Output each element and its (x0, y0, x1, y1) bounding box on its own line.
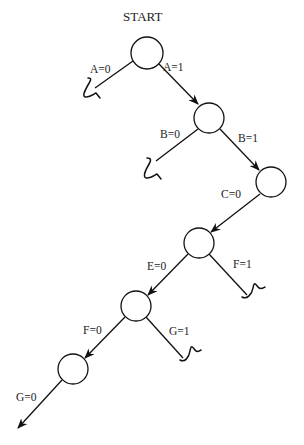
edge-g1 (146, 317, 183, 358)
label-b1: B=1 (238, 132, 258, 144)
decision-tree-diagram: START A=0 A=1 B=0 B=1 C=0 E=0 F=1 F=0 G=… (0, 0, 304, 445)
label-f1: F=1 (233, 258, 252, 270)
label-e0: E=0 (147, 260, 167, 272)
dead-end-squiggle-icon (242, 284, 265, 298)
label-b0: B=0 (160, 128, 180, 140)
label-g0: G=0 (16, 391, 37, 403)
node-6 (58, 354, 88, 384)
label-g1: G=1 (169, 325, 190, 337)
node-1 (131, 37, 163, 69)
node-5 (121, 291, 151, 321)
node-2 (194, 103, 224, 133)
label-f0: F=0 (83, 324, 102, 336)
label-c0: C=0 (221, 188, 241, 200)
dead-end-squiggle-icon (180, 347, 201, 361)
start-label: START (123, 9, 162, 24)
edge-g0 (18, 380, 62, 428)
label-a1: A=1 (163, 61, 184, 73)
label-a0: A=0 (90, 63, 111, 75)
node-4 (184, 228, 214, 258)
dead-end-squiggle-icon (84, 78, 100, 98)
dead-end-squiggle-icon (144, 158, 161, 179)
node-3 (256, 167, 286, 197)
